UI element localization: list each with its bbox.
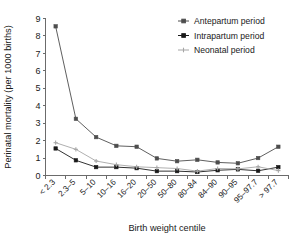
- y-tick-label: 5: [35, 83, 40, 93]
- x-tick-label: 20–50: [136, 177, 159, 200]
- y-axis-title: Perinatal mortality (per 1000 births): [3, 25, 13, 169]
- y-tick-label: 0: [35, 171, 40, 181]
- x-tick-label: 50–80: [156, 177, 179, 200]
- data-point: [94, 165, 97, 168]
- data-point: [74, 117, 77, 120]
- perinatal-mortality-chart: < 2.32.3–55–1010–1616–2020–5050–8080–848…: [0, 0, 297, 241]
- y-tick-labels: 0123456789: [35, 14, 40, 181]
- x-tick-labels: < 2.32.3–55–1010–1616–2020–5050–8080–848…: [38, 177, 280, 205]
- y-tick-label: 9: [35, 14, 40, 24]
- legend-label: Intrapartum period: [194, 31, 264, 41]
- series-neonatal-period: [54, 141, 281, 174]
- data-point: [115, 144, 118, 147]
- chart-legend: Antepartum periodIntrapartum periodNeona…: [178, 16, 265, 55]
- data-point: [155, 157, 158, 160]
- data-point: [135, 145, 138, 148]
- data-point: [155, 169, 158, 172]
- data-point: [216, 161, 219, 164]
- x-tick-label: 2.3–5: [56, 177, 77, 198]
- legend-label: Neonatal period: [194, 45, 255, 55]
- x-tick-label: > 97.7: [257, 177, 280, 200]
- chart-plot-area: < 2.32.3–55–1010–1616–2020–5050–8080–848…: [0, 0, 297, 241]
- x-tick-label: < 2.3: [38, 177, 58, 197]
- y-tick-label: 6: [35, 66, 40, 76]
- x-axis-title: Birth weight centile: [128, 223, 205, 233]
- x-tick-label: 80–84: [176, 177, 199, 200]
- y-tick-label: 7: [35, 49, 40, 59]
- data-point: [236, 162, 239, 165]
- legend-marker: [182, 34, 186, 38]
- y-tick-label: 8: [35, 31, 40, 41]
- data-point: [256, 169, 259, 172]
- data-point: [196, 158, 199, 161]
- y-tick-label: 3: [35, 118, 40, 128]
- data-point: [94, 135, 97, 138]
- data-point: [74, 159, 77, 162]
- y-tick-label: 2: [35, 136, 40, 146]
- y-tick-label: 1: [35, 153, 40, 163]
- x-tick-label: 10–16: [95, 177, 118, 200]
- x-tick-label: 16–20: [116, 177, 139, 200]
- y-tick-label: 4: [35, 101, 40, 111]
- legend-marker: [182, 19, 186, 23]
- data-point: [277, 145, 280, 148]
- data-point: [277, 165, 280, 168]
- x-tick-label: 84–90: [197, 177, 220, 200]
- data-point: [54, 147, 57, 150]
- legend-label: Antepartum period: [194, 16, 265, 26]
- data-point: [256, 156, 259, 159]
- data-point: [54, 25, 57, 28]
- data-point: [175, 159, 178, 162]
- y-axis: [43, 18, 46, 176]
